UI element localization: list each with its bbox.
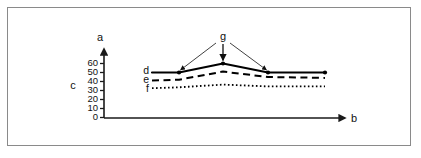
y-axis-title: a — [97, 31, 104, 43]
annotation-label-g: g — [220, 30, 226, 42]
vertex-dot — [323, 70, 327, 74]
series-label-f: f — [146, 82, 149, 94]
vertex-dot — [221, 61, 225, 65]
series-line-f — [152, 85, 325, 89]
line-chart-canvas: 0 10 20 30 40 50 60 a b c d e f g — [0, 0, 421, 158]
x-axis-title: b — [351, 112, 357, 124]
vertex-dot — [266, 70, 270, 74]
y-axis-ticks: 0 10 20 30 40 50 60 — [87, 57, 104, 122]
axis-group — [104, 49, 345, 118]
y-tick-label-60: 60 — [87, 57, 98, 68]
vertex-dot — [177, 70, 181, 74]
y-axis-group-label: c — [70, 79, 76, 91]
figure-root: 0 10 20 30 40 50 60 a b c d e f g — [0, 0, 421, 158]
